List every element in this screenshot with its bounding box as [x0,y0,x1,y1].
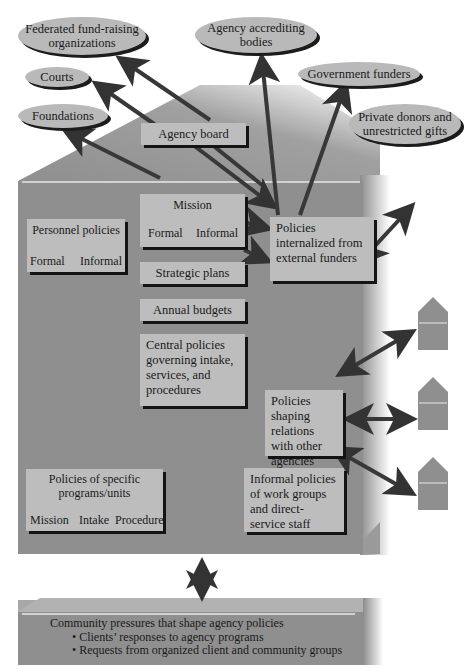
strategic-plans-box: Strategic plans [140,262,245,284]
federated-ellipse: Federated fund-raising organizations [18,17,146,55]
informal-policies-box: Informal policies of work groups and dir… [244,468,344,532]
foundations-ellipse: Foundations [18,104,108,128]
other-agency-house-2 [418,377,448,430]
other-agency-house-3 [418,457,448,510]
annual-budgets-box: Annual budgets [140,299,245,321]
courts-ellipse: Courts [25,67,89,87]
community-bullet: • Requests from organized client and com… [50,644,342,658]
community-title: Community pressures that shape agency po… [50,617,342,631]
personnel-policies-box: Personnel policies Formal Informal [27,219,125,272]
relations-policies-box: Policies shaping relations with other ag… [265,390,343,456]
central-policies-box: Central policies governing intake, servi… [140,334,245,406]
government-funders-ellipse: Government funders [298,62,420,86]
other-agency-house-1 [418,297,448,350]
program-policies-box: Policies of specific programs/units Miss… [26,469,163,531]
community-pressures: Community pressures that shape agency po… [50,617,342,658]
community-bullet: • Clients’ responses to agency programs [50,631,342,645]
internalized-policies-box: Policies internalized from external fund… [270,217,374,281]
agency-board-box: Agency board [141,123,246,145]
agency-accrediting-ellipse: Agency accrediting bodies [195,17,317,53]
private-donors-ellipse: Private donors and unrestricted gifts [349,104,461,144]
mission-box: Mission Formal Informal [140,194,245,247]
